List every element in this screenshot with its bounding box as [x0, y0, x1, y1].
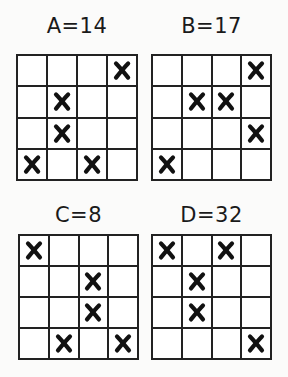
grid-cell-r3c4: [241, 118, 271, 149]
x-mark-icon: [242, 329, 270, 358]
grid-cell-r2c1: [152, 266, 182, 297]
grid-cell-r3c1: [152, 297, 182, 328]
grid-cell-r3c2: [47, 118, 77, 149]
grid-cell-r4c1: [152, 328, 182, 359]
grid-cell-r4c1: [17, 149, 47, 180]
grid-cell-r2c2: [47, 86, 77, 117]
grid-cell-r1c2: [182, 235, 212, 266]
grid-cell-r4c3: [79, 328, 109, 359]
x-mark-icon: [242, 56, 270, 85]
grid-cell-r3c3: [77, 118, 107, 149]
x-mark-icon: [50, 329, 78, 358]
x-mark-icon: [80, 267, 108, 296]
puzzle-a-label: A=14: [16, 16, 138, 37]
x-mark-icon: [109, 329, 137, 358]
grid-cell-r1c1: [19, 235, 49, 266]
grid-cell-r1c3: [212, 235, 242, 266]
grid-cell-r1c3: [212, 55, 242, 86]
grid-cell-r3c3: [212, 118, 242, 149]
grid-cell-r3c1: [17, 118, 47, 149]
grid-cell-r3c3: [212, 297, 242, 328]
grid-cell-r1c1: [17, 55, 47, 86]
grid-cell-r2c2: [49, 266, 79, 297]
grid-cell-r2c4: [108, 266, 138, 297]
grid-cell-r4c2: [182, 149, 212, 180]
grid-cell-r2c2: [182, 266, 212, 297]
grid-cell-r4c4: [107, 149, 137, 180]
grid-cell-r4c3: [212, 328, 242, 359]
x-mark-icon: [48, 87, 76, 116]
grid-cell-r1c4: [107, 55, 137, 86]
puzzle-b-label: B=17: [151, 16, 272, 37]
grid-cell-r3c3: [79, 297, 109, 328]
grid-cell-r1c2: [182, 55, 212, 86]
grid-cell-r1c2: [47, 55, 77, 86]
grid-cell-r3c1: [19, 297, 49, 328]
grid-cell-r2c1: [19, 266, 49, 297]
grid-cell-r1c1: [152, 55, 182, 86]
x-mark-icon: [213, 87, 241, 116]
grid-cell-r1c3: [77, 55, 107, 86]
grid-cell-r2c3: [79, 266, 109, 297]
x-mark-icon: [213, 236, 241, 265]
grid-cell-r2c1: [152, 86, 182, 117]
grid-cell-r2c3: [212, 86, 242, 117]
grid-cell-r4c4: [241, 149, 271, 180]
grid-cell-r4c3: [77, 149, 107, 180]
grid-cell-r1c4: [241, 55, 271, 86]
x-mark-icon: [18, 150, 46, 179]
grid-cell-r1c3: [79, 235, 109, 266]
x-mark-icon: [108, 56, 136, 85]
grid-cell-r4c4: [108, 328, 138, 359]
grid-cell-r2c4: [241, 266, 271, 297]
x-mark-icon: [48, 119, 76, 148]
grid-cell-r4c1: [152, 149, 182, 180]
puzzle-c-grid: [18, 234, 139, 360]
grid-cell-r3c4: [108, 297, 138, 328]
grid-cell-r3c2: [49, 297, 79, 328]
x-mark-icon: [80, 298, 108, 327]
grid-cell-r1c2: [49, 235, 79, 266]
grid-cell-r4c2: [182, 328, 212, 359]
x-mark-icon: [153, 236, 181, 265]
grid-cell-r1c1: [152, 235, 182, 266]
grid-cell-r3c2: [182, 297, 212, 328]
grid-cell-r4c2: [47, 149, 77, 180]
grid-cell-r4c2: [49, 328, 79, 359]
x-mark-icon: [183, 298, 211, 327]
grid-cell-r3c4: [107, 118, 137, 149]
grid-cell-r2c4: [107, 86, 137, 117]
grid-cell-r3c2: [182, 118, 212, 149]
grid-cell-r2c3: [212, 266, 242, 297]
grid-cell-r1c4: [108, 235, 138, 266]
grid-cell-r4c3: [212, 149, 242, 180]
grid-cell-r2c4: [241, 86, 271, 117]
x-mark-icon: [78, 150, 106, 179]
x-mark-icon: [242, 119, 270, 148]
x-mark-icon: [20, 236, 48, 265]
grid-cell-r2c3: [77, 86, 107, 117]
x-mark-icon: [183, 87, 211, 116]
grid-cell-r3c1: [152, 118, 182, 149]
puzzle-b-grid: [151, 54, 272, 181]
puzzle-d-label: D=32: [151, 205, 272, 226]
grid-cell-r4c4: [241, 328, 271, 359]
puzzle-c-label: C=8: [18, 205, 139, 226]
puzzle-a-grid: [16, 54, 138, 181]
grid-cell-r1c4: [241, 235, 271, 266]
x-mark-icon: [153, 150, 181, 179]
grid-cell-r3c4: [241, 297, 271, 328]
grid-cell-r4c1: [19, 328, 49, 359]
grid-cell-r2c2: [182, 86, 212, 117]
x-mark-icon: [183, 267, 211, 296]
puzzle-d-grid: [151, 234, 272, 360]
grid-cell-r2c1: [17, 86, 47, 117]
